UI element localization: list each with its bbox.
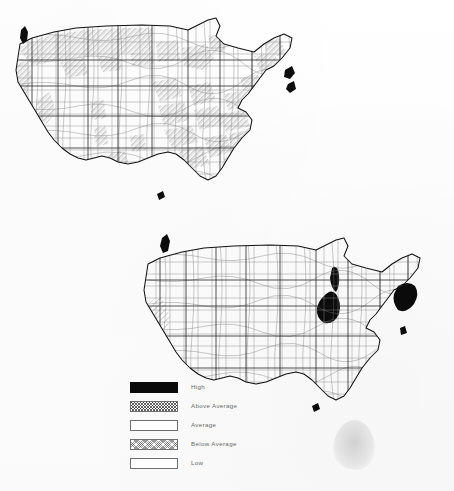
legend-swatch-low [130, 458, 178, 469]
lower-above-average-regions [148, 276, 427, 348]
legend-swatch-above-average [130, 401, 178, 412]
legend-item-average: Average [130, 419, 300, 432]
legend-swatch-below-average [130, 439, 178, 450]
legend-swatch-average [130, 420, 178, 431]
upper-us-county-map [2, 8, 322, 220]
figure-page: High Above Average Average Below Average… [0, 0, 454, 491]
legend-item-below-average: Below Average [130, 438, 300, 451]
legend-item-high: High [130, 381, 300, 394]
map-classification-legend: High Above Average Average Below Average… [130, 381, 300, 476]
legend-label-average: Average [191, 422, 216, 428]
legend-item-above-average: Above Average [130, 400, 300, 413]
legend-label-below-average: Below Average [191, 441, 237, 447]
legend-swatch-high [130, 382, 178, 393]
legend-label-low: Low [191, 460, 203, 466]
legend-item-low: Low [130, 457, 300, 470]
legend-label-above-average: Above Average [191, 403, 237, 409]
legend-label-high: High [191, 384, 205, 390]
